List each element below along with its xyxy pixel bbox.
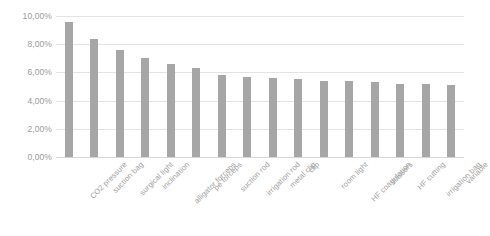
bar[interactable] — [116, 50, 124, 157]
y-axis-tick-label: 4,00% — [4, 96, 52, 106]
bar[interactable] — [294, 79, 302, 157]
y-axis-tick-label: 0,00% — [4, 152, 52, 162]
y-axis-tick-label: 10,00% — [4, 11, 52, 21]
y-axis: 10,00%8,00%6,00%4,00%2,00%0,00% — [0, 16, 52, 157]
bar-slot — [192, 16, 200, 157]
plot-area — [56, 16, 464, 157]
bar[interactable] — [65, 22, 73, 157]
bar-slot — [116, 16, 124, 157]
y-axis-tick-label: 6,00% — [4, 67, 52, 77]
bar[interactable] — [243, 77, 251, 157]
bar[interactable] — [167, 64, 175, 157]
bar-slot — [90, 16, 98, 157]
x-axis-tick-label: room light — [339, 160, 370, 191]
bar[interactable] — [345, 81, 353, 157]
bar-slot — [65, 16, 73, 157]
bar[interactable] — [218, 75, 226, 157]
bar-slot — [345, 16, 353, 157]
bar[interactable] — [422, 84, 430, 157]
bar-slot — [320, 16, 328, 157]
bar-slot — [218, 16, 226, 157]
bar[interactable] — [447, 85, 455, 157]
bar-slot — [447, 16, 455, 157]
bar[interactable] — [396, 84, 404, 157]
bar-slot — [243, 16, 251, 157]
bar[interactable] — [141, 58, 149, 157]
bar-slot — [141, 16, 149, 157]
bar-slot — [396, 16, 404, 157]
bar-series — [56, 16, 464, 157]
y-axis-tick-label: 2,00% — [4, 124, 52, 134]
bar[interactable] — [320, 81, 328, 157]
bar[interactable] — [192, 68, 200, 157]
y-axis-tick-label: 8,00% — [4, 39, 52, 49]
bar-slot — [294, 16, 302, 157]
bar[interactable] — [371, 82, 379, 157]
bar-slot — [371, 16, 379, 157]
x-axis: CO2 pressuresuction bagsurgical lightinc… — [56, 157, 464, 236]
bar[interactable] — [90, 39, 98, 157]
bar-slot — [269, 16, 277, 157]
bar[interactable] — [269, 78, 277, 157]
x-axis-tick-label: HF cutting — [416, 160, 448, 192]
bar-slot — [167, 16, 175, 157]
bar-slot — [422, 16, 430, 157]
